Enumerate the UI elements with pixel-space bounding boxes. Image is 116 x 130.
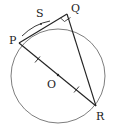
point-s-dot: [40, 23, 42, 25]
center-dot: [57, 74, 59, 76]
label-p: P: [9, 34, 17, 47]
label-q: Q: [71, 2, 80, 15]
label-s: S: [36, 7, 44, 20]
geometry-diagram: P Q S O R: [0, 0, 116, 130]
segment-qr: [67, 14, 96, 106]
label-o: O: [47, 78, 56, 91]
label-r: R: [96, 110, 105, 123]
arc-ps-mark: [22, 21, 50, 36]
